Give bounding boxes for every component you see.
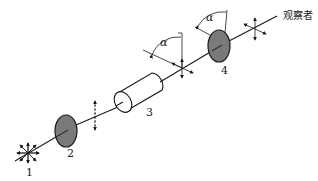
label-4: 4 <box>221 64 228 77</box>
label-3: 3 <box>146 106 153 119</box>
analyzer-4-icon <box>208 30 230 62</box>
output-polarization-arrows-icon <box>244 18 266 40</box>
observer-label: 观察者 <box>283 9 313 21</box>
rotated-polarization-arrows-icon <box>172 59 193 78</box>
label-2: 2 <box>67 147 74 160</box>
sample-tube-icon <box>111 73 163 116</box>
alpha-label-1: α <box>160 36 168 49</box>
alpha-label-2: α <box>206 11 214 24</box>
optical-diagram: 1 2 3 α 4 α <box>0 0 318 181</box>
label-1: 1 <box>26 166 33 179</box>
light-source-icon <box>17 143 39 163</box>
